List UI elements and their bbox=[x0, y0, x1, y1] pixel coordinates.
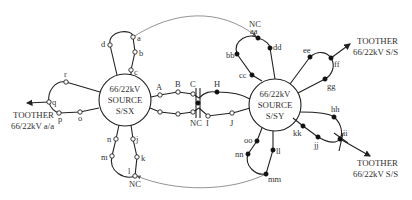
switch-k[interactable] bbox=[135, 155, 139, 159]
label-J: J bbox=[230, 118, 234, 128]
label-d: d bbox=[101, 39, 106, 49]
label-m: m bbox=[101, 152, 108, 162]
label-mm: mm bbox=[268, 174, 282, 184]
source-sx-line2: SOURCE bbox=[108, 95, 143, 105]
switch-c[interactable] bbox=[129, 68, 133, 72]
label-nn: nn bbox=[235, 149, 244, 159]
label-ll: ll bbox=[276, 146, 281, 156]
switch-l[interactable] bbox=[133, 174, 137, 178]
right-bottom-external-arrow bbox=[340, 139, 370, 156]
switch-B[interactable] bbox=[176, 90, 180, 94]
nc-label-top: NC bbox=[249, 19, 261, 29]
switch-m[interactable] bbox=[110, 154, 114, 158]
label-b: b bbox=[139, 48, 143, 58]
switch-dd[interactable] bbox=[268, 46, 272, 50]
switch-lower-2[interactable] bbox=[176, 112, 180, 116]
nc-label-middle: NC bbox=[190, 118, 202, 128]
top-tie-line bbox=[133, 16, 256, 37]
label-oo: oo bbox=[244, 135, 253, 145]
label-j: j bbox=[135, 134, 138, 144]
source-sy-line2: SOURCE bbox=[258, 100, 293, 110]
label-k: k bbox=[141, 153, 146, 163]
right-top-external-line2: 66/22kV S/S bbox=[353, 47, 398, 57]
label-cc: cc bbox=[239, 70, 247, 80]
label-C: C bbox=[190, 79, 196, 89]
label-c: c bbox=[134, 67, 138, 77]
left-external-line1: TOOTHER bbox=[13, 110, 54, 120]
switch-A[interactable] bbox=[158, 93, 162, 97]
label-p: p bbox=[58, 114, 62, 124]
switch-C[interactable] bbox=[191, 92, 195, 96]
label-r: r bbox=[64, 69, 67, 79]
switch-hh[interactable] bbox=[332, 115, 336, 119]
label-I: I bbox=[206, 118, 209, 128]
switch-bb[interactable] bbox=[235, 52, 239, 56]
label-H: H bbox=[214, 79, 220, 89]
switch-jj[interactable] bbox=[316, 135, 320, 139]
bottom-tie-line bbox=[137, 174, 266, 188]
label-bb: bb bbox=[226, 50, 235, 60]
label-kk: kk bbox=[293, 128, 302, 138]
label-n: n bbox=[107, 134, 112, 144]
switch-a[interactable] bbox=[131, 35, 135, 39]
switch-cc[interactable] bbox=[250, 73, 254, 77]
switch-lower-1[interactable] bbox=[158, 110, 162, 114]
label-A: A bbox=[156, 82, 163, 92]
label-ii: ii bbox=[343, 128, 348, 138]
switch-oo[interactable] bbox=[255, 139, 259, 143]
switch-q[interactable] bbox=[47, 100, 51, 104]
feeder-h-upper bbox=[199, 92, 250, 99]
label-hh: hh bbox=[331, 104, 340, 114]
switch-ff[interactable] bbox=[329, 56, 333, 60]
switch-nc-middle[interactable] bbox=[196, 101, 200, 105]
right-bottom-external-line2: 66/22kV S/S bbox=[353, 169, 398, 179]
source-sy-line3: S/SY bbox=[266, 111, 285, 121]
switch-ii[interactable] bbox=[338, 137, 342, 141]
switch-ll[interactable] bbox=[271, 148, 275, 152]
source-sy-line1: 66/22kV bbox=[260, 89, 291, 99]
switch-lower-3[interactable] bbox=[191, 110, 195, 114]
right-top-external-line1: TOOTHER bbox=[357, 36, 398, 46]
switch-H[interactable] bbox=[215, 90, 219, 94]
feeder-loop-nmlkj bbox=[111, 125, 137, 177]
switch-j[interactable] bbox=[131, 137, 135, 141]
distribution-network-diagram: 66/22kV SOURCE S/SX 66/22kV SOURCE S/SY bbox=[0, 0, 412, 200]
switch-J[interactable] bbox=[230, 111, 234, 115]
label-gg: gg bbox=[327, 81, 336, 91]
left-external-arrow bbox=[27, 102, 49, 103]
label-ff: ff bbox=[334, 59, 340, 69]
label-B: B bbox=[175, 79, 181, 89]
switch-nn[interactable] bbox=[246, 152, 250, 156]
left-external-line2: 66/22kV a/a bbox=[11, 121, 54, 131]
label-ee: ee bbox=[303, 45, 311, 55]
source-sx-line3: S/SX bbox=[116, 106, 135, 116]
label-l: l bbox=[128, 166, 131, 176]
nc-label-bottom: NC bbox=[129, 179, 141, 189]
label-a: a bbox=[137, 33, 141, 43]
switch-r[interactable] bbox=[64, 80, 68, 84]
switch-b[interactable] bbox=[133, 50, 137, 54]
switch-d[interactable] bbox=[108, 43, 112, 47]
right-top-external-arrow bbox=[331, 44, 350, 58]
label-dd: dd bbox=[273, 42, 282, 52]
right-bottom-external-line1: TOOTHER bbox=[357, 158, 398, 168]
label-o: o bbox=[78, 113, 82, 123]
source-sx-line1: 66/22kV bbox=[110, 84, 141, 94]
switch-aa[interactable] bbox=[256, 36, 260, 40]
switch-n[interactable] bbox=[114, 137, 118, 141]
feeder-loop-rqpo bbox=[49, 82, 100, 113]
label-q: q bbox=[52, 97, 57, 107]
label-jj: jj bbox=[313, 140, 319, 150]
switch-ee[interactable] bbox=[308, 55, 312, 59]
